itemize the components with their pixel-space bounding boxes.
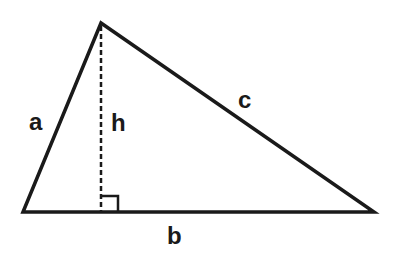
label-side-b: b	[167, 222, 182, 249]
right-angle-marker	[102, 196, 118, 212]
label-height-h: h	[111, 109, 126, 136]
triangle-outline	[23, 23, 374, 212]
label-side-c: c	[238, 86, 251, 113]
label-side-a: a	[29, 108, 43, 135]
triangle-diagram: a h c b	[0, 0, 395, 254]
